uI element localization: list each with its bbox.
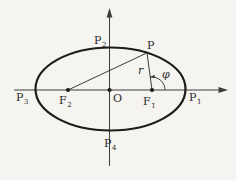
label-radius-r: r	[138, 65, 143, 76]
label-origin-o: O	[113, 93, 122, 104]
label-point-p: P	[147, 40, 154, 51]
diagram-canvas	[0, 0, 236, 180]
label-focus-f1: F1	[143, 96, 155, 107]
y-axis-arrowhead-icon	[107, 8, 113, 18]
focus-f2-marker	[66, 88, 70, 92]
origin-point-marker	[107, 88, 111, 92]
label-vertex-p4: P4	[104, 138, 116, 149]
segment-p-to-f1-radius-r	[147, 53, 152, 90]
label-vertex-p1: P1	[189, 92, 201, 103]
label-vertex-p2: P2	[94, 35, 106, 46]
label-focus-f2: F2	[59, 95, 71, 106]
focus-f1-marker	[150, 88, 154, 92]
x-axis-arrowhead-icon	[219, 87, 229, 93]
label-angle-phi: φ	[162, 69, 170, 80]
label-vertex-p3: P3	[16, 92, 28, 103]
ellipse-focal-radius-figure: P P2 P1 P3 P4 F2 F1 O r φ	[0, 0, 236, 180]
segment-f2-to-p	[68, 53, 147, 90]
